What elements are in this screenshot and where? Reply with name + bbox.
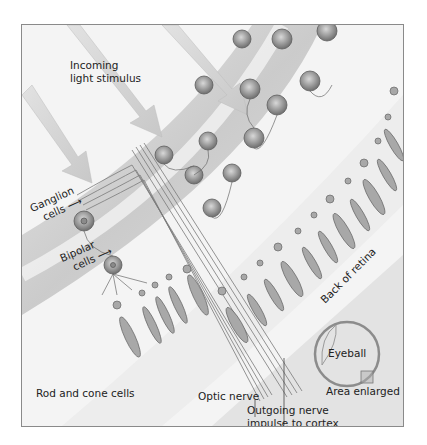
- label-line: Outgoing nerve: [247, 404, 339, 417]
- label-eyeball: Eyeball: [328, 347, 366, 360]
- label-rod-cone-cells: Rod and cone cells: [36, 387, 135, 400]
- label-line: light stimulus: [70, 72, 141, 85]
- label-line: impulse to cortex: [247, 417, 339, 427]
- label-incoming-light: Incoming light stimulus: [70, 59, 141, 85]
- label-line: Incoming: [70, 59, 141, 72]
- label-optic-nerve: Optic nerve: [198, 390, 259, 403]
- retina-illustration: [22, 25, 403, 426]
- retina-diagram: Incoming light stimulus Ganglion cells ⟶…: [21, 24, 404, 427]
- label-outgoing-impulse: Outgoing nerve impulse to cortex: [247, 404, 339, 427]
- label-area-enlarged: Area enlarged: [326, 385, 400, 398]
